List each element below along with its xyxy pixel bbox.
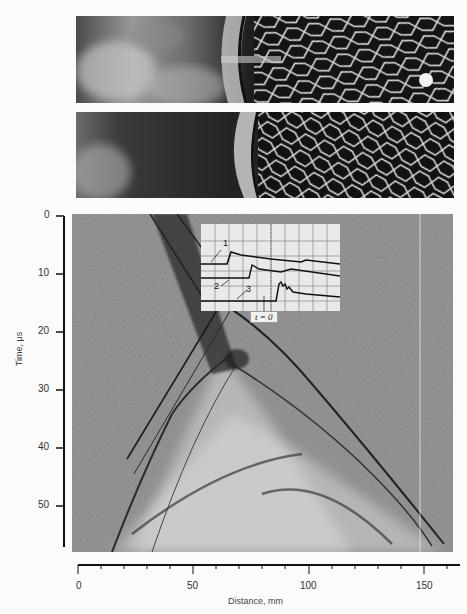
oscillogram-inset: 1 2 3 (201, 224, 340, 311)
y-tick-20: 20 (38, 325, 49, 336)
y-tick-30: 30 (38, 383, 49, 394)
x-tick-50: 50 (187, 580, 198, 591)
time-zero-label: t = 0 (250, 311, 278, 323)
trace-2 (201, 265, 340, 278)
x-axis (72, 560, 467, 580)
y-tick-10: 10 (38, 267, 49, 278)
y-axis-title: Time, μs (14, 324, 24, 374)
trace-label-2: 2 (214, 281, 219, 291)
trace-label-3: 3 (246, 284, 251, 294)
y-ticks (56, 216, 64, 506)
x-tick-100: 100 (300, 580, 317, 591)
frame-photo-1 (76, 16, 454, 103)
x-tick-0: 0 (76, 580, 82, 591)
x-axis-title: Distance, mm (228, 596, 283, 606)
trace-label-1: 1 (223, 238, 228, 248)
y-tick-50: 50 (38, 499, 49, 510)
streak-photo: 1 2 3 t = 0 (72, 214, 453, 552)
trace-1 (201, 252, 340, 264)
y-tick-40: 40 (38, 441, 49, 452)
y-tick-0: 0 (44, 209, 50, 220)
marker-circle (419, 73, 433, 87)
oscillogram-grid (201, 224, 340, 311)
x-tick-150: 150 (416, 580, 433, 591)
frame-photo-2 (76, 112, 454, 198)
trace-3 (201, 282, 340, 301)
